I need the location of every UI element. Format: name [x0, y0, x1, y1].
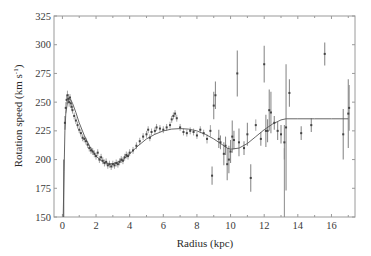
data-point: [114, 164, 116, 166]
data-point: [127, 155, 129, 157]
data-point: [196, 134, 198, 136]
data-point: [243, 147, 245, 149]
data-point: [280, 133, 282, 135]
data-point: [199, 129, 201, 131]
y-tick-label: 325: [35, 11, 51, 22]
data-point: [147, 129, 149, 131]
x-axis: 0246810121416: [60, 16, 348, 231]
data-point: [209, 130, 211, 132]
data-point: [236, 72, 238, 74]
data-point: [100, 156, 102, 158]
data-point: [154, 130, 156, 132]
data-point: [277, 130, 279, 132]
data-point: [189, 130, 191, 132]
data-point: [83, 138, 85, 140]
x-tick-label: 16: [326, 220, 337, 231]
data-point: [348, 107, 350, 109]
data-point: [310, 124, 312, 126]
y-tick-label: 225: [35, 125, 51, 136]
plot-frame: [54, 16, 355, 217]
y-tick-label: 150: [35, 212, 51, 223]
data-point: [203, 132, 205, 134]
data-point: [122, 160, 124, 162]
x-tick-label: 14: [293, 220, 304, 231]
data-point: [218, 138, 220, 140]
data-point: [267, 130, 269, 132]
data-point: [124, 156, 126, 158]
data-point: [273, 122, 275, 124]
data-point: [172, 115, 174, 117]
data-point: [71, 106, 73, 108]
data-point: [78, 129, 80, 131]
data-point: [73, 115, 75, 117]
data-point: [156, 126, 158, 128]
data-point: [231, 136, 233, 138]
x-tick-label: 8: [194, 220, 199, 231]
data-point: [206, 138, 208, 140]
data-point: [92, 151, 94, 153]
x-tick-label: 6: [161, 220, 166, 231]
data-point: [228, 159, 230, 161]
data-point: [223, 153, 225, 155]
data-point: [182, 131, 184, 133]
data-point: [95, 155, 97, 157]
y-tick-label: 275: [35, 68, 51, 79]
y-axis: 150175200225250275300325: [35, 11, 355, 223]
y-axis-title-close: ): [12, 64, 25, 68]
data-point: [193, 131, 195, 133]
x-tick-label: 2: [93, 220, 98, 231]
data-point: [300, 132, 302, 134]
data-point: [186, 132, 188, 134]
data-point: [97, 152, 99, 154]
data-point: [169, 124, 171, 126]
data-point: [285, 126, 287, 128]
data-point: [260, 138, 262, 140]
data-point: [149, 137, 151, 139]
x-tick-label: 4: [127, 220, 133, 231]
data-point: [108, 163, 110, 165]
x-tick-label: 12: [259, 220, 270, 231]
y-axis-title: Rotation speed (km s-1): [12, 64, 25, 167]
data-point: [230, 151, 232, 153]
data-point: [342, 133, 344, 135]
data-point: [151, 131, 153, 133]
data-point: [166, 126, 168, 128]
data-point: [142, 136, 144, 138]
data-point: [75, 120, 77, 122]
y-tick-label: 250: [35, 97, 51, 108]
data-point: [347, 113, 349, 115]
data-point: [225, 145, 227, 147]
data-point: [129, 152, 131, 154]
data-point: [85, 140, 87, 142]
rotation-curve-chart: 150175200225250275300325 0246810121416 R…: [0, 0, 371, 256]
data-point: [263, 63, 265, 65]
data-point: [88, 147, 90, 149]
data-point: [179, 126, 181, 128]
data-point: [211, 175, 213, 177]
data-point: [255, 124, 257, 126]
data-point: [213, 105, 215, 107]
data-point: [87, 144, 89, 146]
data-point: [246, 133, 248, 135]
data-point: [69, 97, 71, 99]
data-point: [80, 132, 82, 134]
x-tick-label: 10: [225, 220, 236, 231]
data-point: [70, 102, 72, 104]
data-point: [250, 177, 252, 179]
data-point: [132, 149, 134, 151]
data-point: [162, 129, 164, 131]
data-point: [176, 117, 178, 119]
data-point: [102, 160, 104, 162]
data-point: [219, 141, 221, 143]
data-point: [174, 113, 176, 115]
data-point: [117, 163, 119, 165]
data-points: [64, 53, 350, 179]
x-axis-title: Radius (kpc): [177, 237, 234, 250]
data-point: [238, 141, 240, 143]
y-tick-label: 300: [35, 39, 51, 50]
data-point: [324, 53, 326, 55]
data-point: [270, 111, 272, 113]
data-point: [93, 153, 95, 155]
data-point: [65, 107, 67, 109]
y-axis-title-main: Rotation speed (km s: [12, 74, 25, 167]
